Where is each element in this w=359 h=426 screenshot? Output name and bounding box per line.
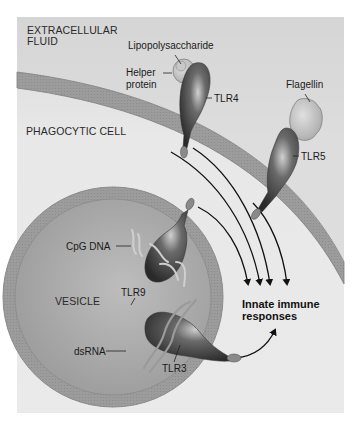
helper-line1: Helper: [126, 67, 157, 79]
extracellular-label: EXTRACELLULAR FLUID: [27, 25, 118, 47]
helper-line2: protein: [126, 79, 157, 91]
tlr-diagram: EXTRACELLULAR FLUID PHAGOCYTIC CELL VESI…: [0, 0, 359, 426]
tlr9-label: TLR9: [121, 287, 145, 298]
innate-immune-responses-label: Innate immune responses: [242, 298, 320, 322]
tlr4-label: TLR4: [214, 93, 238, 104]
phagocytic-cell-label: PHAGOCYTIC CELL: [26, 126, 126, 137]
vesicle-label: VESICLE: [55, 296, 100, 307]
output-line2: responses: [242, 310, 320, 322]
output-line1: Innate immune: [242, 298, 320, 310]
cpg-dna-label: CpG DNA: [66, 241, 110, 252]
lps-molecule: [176, 61, 186, 71]
dsrna-label: dsRNA: [74, 346, 106, 357]
lps-label: Lipopolysaccharide: [128, 40, 214, 51]
extracellular-line2: FLUID: [27, 36, 118, 47]
flagellin-label: Flagellin: [286, 79, 323, 90]
vesicle: [3, 187, 223, 407]
tlr3-label: TLR3: [162, 363, 186, 374]
helper-protein-label: Helper protein: [126, 67, 157, 91]
tlr5-label: TLR5: [301, 151, 325, 162]
